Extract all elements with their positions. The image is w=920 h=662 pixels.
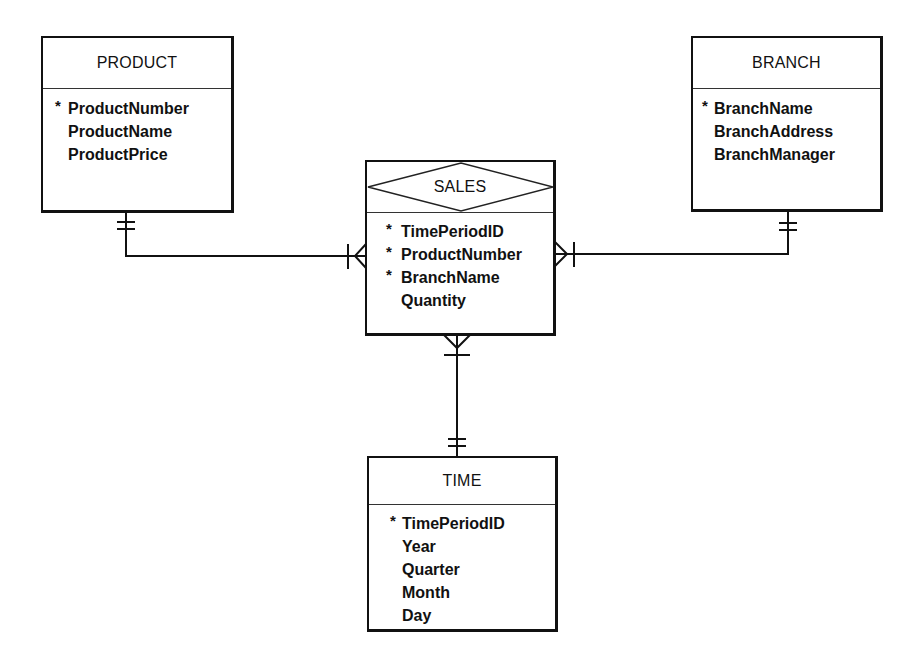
attribute-row: ProductPrice [43, 143, 231, 166]
entity-header: TIME [369, 458, 555, 505]
attribute-row: * TimePeriodID [367, 220, 553, 243]
attribute-row: * ProductNumber [43, 97, 231, 120]
attribute-row: Month [369, 581, 555, 604]
entity-product[interactable]: PRODUCT * ProductNumber ProductName Prod… [41, 36, 234, 213]
attribute-list: * BranchName BranchAddress BranchManager [693, 97, 880, 166]
entity-title: SALES [434, 178, 487, 196]
attribute-name: Quarter [402, 558, 460, 581]
attribute-row: * TimePeriodID [369, 512, 555, 535]
entity-branch[interactable]: BRANCH * BranchName BranchAddress Branch… [691, 36, 883, 212]
crows-foot-icon [445, 336, 469, 348]
primary-key-marker: * [390, 509, 396, 532]
primary-key-marker: * [386, 217, 392, 240]
attribute-name: BranchAddress [714, 120, 833, 143]
attribute-row: ProductName [43, 120, 231, 143]
attribute-row: Year [369, 535, 555, 558]
attribute-name: BranchName [714, 97, 813, 120]
entity-title: TIME [442, 472, 481, 490]
entity-time[interactable]: TIME * TimePeriodID Year Quarter Month D… [367, 456, 558, 632]
attribute-name: ProductName [68, 120, 172, 143]
er-diagram-canvas: PRODUCT * ProductNumber ProductName Prod… [0, 0, 920, 662]
crows-foot-icon [555, 242, 567, 266]
entity-title: PRODUCT [97, 54, 178, 72]
attribute-row: * BranchName [367, 266, 553, 289]
attribute-name: ProductNumber [401, 243, 522, 266]
attribute-row: BranchManager [693, 143, 880, 166]
attribute-row: Quantity [367, 289, 553, 312]
attribute-list: * ProductNumber ProductName ProductPrice [43, 97, 231, 166]
attribute-name: TimePeriodID [401, 220, 504, 243]
attribute-row: BranchAddress [693, 120, 880, 143]
attribute-row: Quarter [369, 558, 555, 581]
attribute-row: * BranchName [693, 97, 880, 120]
primary-key-marker: * [55, 94, 61, 117]
attribute-name: Year [402, 535, 436, 558]
attribute-name: ProductPrice [68, 143, 168, 166]
attribute-list: * TimePeriodID Year Quarter Month Day [369, 512, 555, 627]
primary-key-marker: * [702, 94, 708, 117]
attribute-list: * TimePeriodID * ProductNumber * BranchN… [367, 220, 553, 312]
attribute-name: TimePeriodID [402, 512, 505, 535]
attribute-name: Day [402, 604, 431, 627]
entity-header: BRANCH [693, 38, 880, 89]
primary-key-marker: * [386, 263, 392, 286]
attribute-name: Month [402, 581, 450, 604]
attribute-name: ProductNumber [68, 97, 189, 120]
time-sales-relationship [445, 336, 469, 456]
entity-header: SALES [367, 162, 553, 213]
attribute-row: * ProductNumber [367, 243, 553, 266]
primary-key-marker: * [386, 240, 392, 263]
attribute-name: BranchManager [714, 143, 835, 166]
attribute-row: Day [369, 604, 555, 627]
entity-title: BRANCH [752, 54, 821, 72]
attribute-name: BranchName [401, 266, 500, 289]
attribute-name: Quantity [401, 289, 466, 312]
branch-sales-relationship [555, 212, 796, 266]
entity-header: PRODUCT [43, 38, 231, 89]
entity-sales[interactable]: SALES * TimePeriodID * ProductNumber * B… [365, 160, 556, 336]
product-sales-relationship [118, 213, 366, 268]
